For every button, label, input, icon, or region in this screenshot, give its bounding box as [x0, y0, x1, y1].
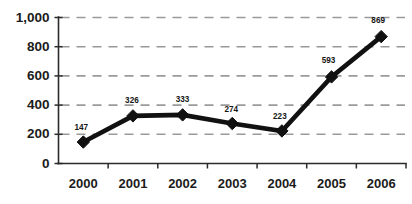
y-axis-tick-labels: 02004006008001,000: [16, 10, 50, 171]
y-tick-label-600: 600: [27, 68, 50, 83]
x-tick-label-2002: 2002: [168, 176, 197, 191]
x-tick-label-2003: 2003: [218, 176, 247, 191]
data-label-2005: 593: [322, 56, 336, 65]
data-point-2002: [176, 109, 188, 121]
x-tick-label-2000: 2000: [69, 176, 98, 191]
x-tick-label-2005: 2005: [317, 176, 346, 191]
data-label-2003: 274: [224, 105, 238, 114]
y-tick-label-0: 0: [42, 156, 50, 171]
gridlines: [61, 18, 406, 135]
y-tick-label-1000: 1,000: [16, 10, 50, 25]
data-label-2000: 147: [74, 123, 88, 132]
y-tick-label-200: 200: [27, 126, 50, 141]
data-label-2002: 333: [176, 95, 190, 104]
data-point-2003: [226, 117, 238, 129]
data-label-2006: 869: [371, 16, 385, 25]
y-tick-label-400: 400: [27, 97, 50, 112]
data-point-markers: [77, 30, 387, 148]
x-tick-label-2001: 2001: [119, 176, 148, 191]
x-tick-label-2004: 2004: [267, 176, 297, 191]
chart-axes: [58, 17, 406, 164]
chart-canvas: 02004006008001,000 200020012002200320042…: [0, 0, 412, 204]
data-label-2001: 326: [125, 96, 139, 105]
x-axis-tick-labels: 2000200120022003200420052006: [69, 176, 396, 191]
y-tick-label-800: 800: [27, 39, 50, 54]
data-label-2004: 223: [273, 112, 287, 121]
x-tick-label-2006: 2006: [367, 176, 396, 191]
line-chart: 02004006008001,000 200020012002200320042…: [0, 0, 412, 204]
